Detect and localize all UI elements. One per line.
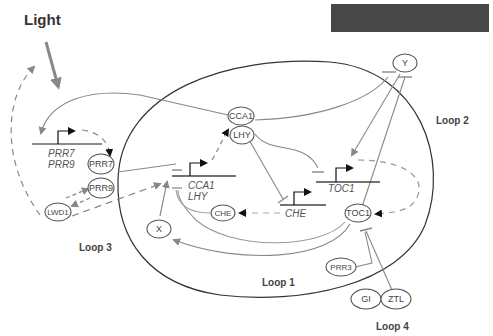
- gene-lhy: LHY: [188, 191, 209, 202]
- node-che: CHE: [211, 205, 235, 221]
- toc1-gene-to-protein: [358, 160, 419, 214]
- gene-prr9: PRR9: [48, 159, 75, 170]
- svg-text:TOC1: TOC1: [346, 208, 370, 218]
- svg-text:PRR3: PRR3: [330, 263, 352, 272]
- lwd1-light-dashed: [11, 67, 40, 215]
- che-promoter-arrow: [294, 192, 310, 205]
- cca1-promoter-arrow: [190, 163, 206, 176]
- node-prr3: PRR3: [326, 258, 356, 276]
- toc1-inhibit-y: [360, 77, 405, 213]
- prr-promoter-arrow: [58, 131, 74, 144]
- node-toc1: TOC1: [345, 204, 371, 222]
- light-arrow: [46, 42, 58, 86]
- gene-che: CHE: [285, 208, 306, 219]
- cca1-inhibit-y: [255, 77, 388, 120]
- svg-text:ZTL: ZTL: [388, 294, 404, 304]
- x-to-cca1: [160, 182, 167, 216]
- lhy-inhibit-che: [248, 138, 283, 199]
- ztl-inhibit-toc1: [366, 231, 392, 290]
- svg-text:PRR7: PRR7: [89, 159, 113, 169]
- node-lhy: LHY: [230, 126, 254, 144]
- node-prr9: PRR9: [88, 178, 114, 198]
- prr3-inhibit-toc1: [355, 232, 372, 267]
- svg-text:Y: Y: [402, 58, 408, 68]
- svg-text:X: X: [156, 224, 162, 234]
- redacted-box: [331, 4, 489, 32]
- svg-text:CCA1: CCA1: [229, 111, 253, 121]
- loop2-label: Loop 2: [436, 115, 469, 126]
- clock-network-diagram: Light PRR7 PRR9 CCA1 LHY TOC1: [0, 0, 493, 336]
- lwd1-to-cca1-dashed: [72, 184, 160, 216]
- loop3-label: Loop 3: [79, 242, 112, 253]
- node-y: Y: [393, 54, 417, 72]
- gene-prr7: PRR7: [48, 148, 75, 159]
- node-cca1: CCA1: [228, 107, 254, 125]
- node-lwd1: LWD1: [45, 203, 71, 221]
- toc1-to-x-arc: [174, 224, 350, 256]
- node-prr7: PRR7: [88, 154, 114, 174]
- cca1-gene-to-protein: [212, 130, 228, 160]
- svg-text:CHE: CHE: [215, 209, 232, 218]
- svg-text:PRR9: PRR9: [89, 183, 113, 193]
- loop4-label: Loop 4: [376, 321, 409, 332]
- node-x: X: [147, 220, 171, 238]
- prr-gene-to-prr7: [82, 130, 110, 155]
- svg-text:LHY: LHY: [233, 130, 251, 140]
- gene-toc1: TOC1: [328, 183, 355, 194]
- gene-cca1: CCA1: [188, 180, 215, 191]
- light-label: Light: [24, 11, 61, 28]
- prr7-inhibit-cca1: [118, 164, 176, 172]
- node-ztl: ZTL: [381, 289, 411, 309]
- loop1-label: Loop 1: [262, 277, 295, 288]
- svg-text:GI: GI: [361, 294, 371, 304]
- lhy-inhibit-toc1: [255, 134, 318, 168]
- node-gi: GI: [351, 289, 381, 309]
- svg-text:LWD1: LWD1: [47, 208, 69, 217]
- toc1-promoter-arrow: [336, 168, 352, 182]
